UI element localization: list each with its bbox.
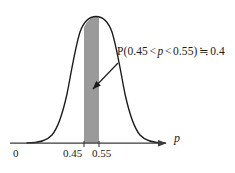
annotation-lower-bound: 0.45 (127, 45, 148, 57)
tick-label-upper: 0.55 (92, 148, 111, 159)
annotation-prefix: P( (117, 45, 127, 57)
probability-annotation-label: P(0.45<p<0.55)≒0.4 (117, 46, 225, 58)
x-axis-label: p (174, 132, 180, 144)
probability-density-figure: P(0.45<p<0.55)≒0.4 p 0 0.45 0.55 (0, 0, 235, 173)
approximately-equal-symbol: ≒ (197, 45, 210, 57)
annotation-op-upper: < (163, 45, 173, 57)
tick-label-lower: 0.45 (63, 148, 82, 159)
annotation-upper-bound: 0.55 (173, 45, 194, 57)
shaded-probability-region (84, 10, 99, 143)
origin-label: 0 (13, 148, 19, 159)
annotation-op-lower: < (148, 45, 158, 57)
annotation-probability-value: 0.4 (210, 45, 225, 57)
distribution-plot-canvas (0, 0, 235, 173)
